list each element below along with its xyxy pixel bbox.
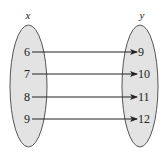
domain-value: 6 [24,45,30,59]
range-value: 11 [138,90,150,104]
range-set-ellipse [122,25,158,147]
range-value: 12 [138,112,150,126]
range-value: 10 [138,67,150,81]
domain-set-label: x [25,9,31,21]
domain-value: 9 [24,112,30,126]
range-set-label: y [139,9,145,21]
range-value: 9 [138,45,144,59]
domain-set-ellipse [10,25,47,147]
domain-value: 8 [24,90,30,104]
domain-value: 7 [24,67,30,81]
mapping-diagram: x y 6 7 8 9 9 10 11 12 [0,0,168,156]
